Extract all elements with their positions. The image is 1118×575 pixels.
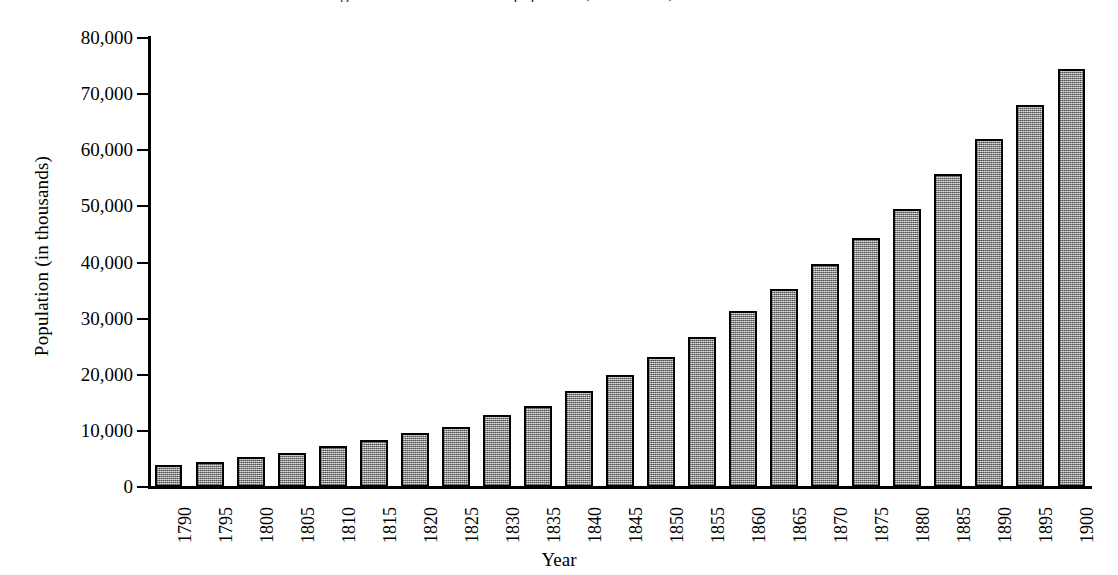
bar (811, 264, 839, 487)
bar (401, 433, 429, 487)
x-axis-tick-label: 1800 (258, 507, 276, 543)
x-axis-tick-label: 1840 (586, 507, 604, 543)
bar (155, 465, 183, 487)
y-axis-tick-label: 30,000 (7, 309, 133, 328)
bar (852, 238, 880, 487)
y-axis-tick-label: 50,000 (7, 196, 133, 215)
bar (278, 453, 306, 487)
bar (893, 209, 921, 487)
bar (975, 139, 1003, 487)
bar (196, 462, 224, 487)
x-axis-tick-label: 1820 (422, 507, 440, 543)
bar (688, 337, 716, 487)
x-axis-tick-label: 1900 (1078, 507, 1096, 543)
y-axis-tick-labels: 010,00020,00030,00040,00050,00060,00070,… (0, 0, 133, 575)
population-bar-chart: Figure: Growth of the U.S. population, 1… (0, 0, 1118, 575)
x-axis-tick-label: 1825 (463, 507, 481, 543)
x-axis-tick-label: 1845 (627, 507, 645, 543)
x-axis-tick-label: 1830 (504, 507, 522, 543)
y-axis-tick (137, 262, 149, 264)
bar (606, 375, 634, 487)
x-axis-tick-labels: 1790179518001805181018151820182518301835… (148, 489, 1092, 549)
x-axis-tick-label: 1875 (873, 507, 891, 543)
bar (934, 174, 962, 487)
x-axis-tick-label: 1890 (996, 507, 1014, 543)
y-axis-tick (137, 205, 149, 207)
x-axis-tick-label: 1885 (955, 507, 973, 543)
y-axis-tick-label: 10,000 (7, 421, 133, 440)
bar (1016, 105, 1044, 487)
bar (647, 357, 675, 487)
x-axis-tick-label: 1835 (545, 507, 563, 543)
x-axis-tick-label: 1795 (217, 507, 235, 543)
y-axis-tick (137, 374, 149, 376)
y-axis-tick-label: 40,000 (7, 253, 133, 272)
x-axis-tick-label: 1870 (832, 507, 850, 543)
x-axis-tick-label: 1860 (750, 507, 768, 543)
x-axis-tick-label: 1880 (914, 507, 932, 543)
bar (483, 415, 511, 487)
x-axis-tick-label: 1810 (340, 507, 358, 543)
bar (770, 289, 798, 487)
bar (319, 446, 347, 487)
x-axis-tick-label: 1865 (791, 507, 809, 543)
y-axis-tick (137, 93, 149, 95)
y-axis-tick-label: 60,000 (7, 140, 133, 159)
y-axis-tick-label: 70,000 (7, 84, 133, 103)
y-axis-tick-label: 20,000 (7, 365, 133, 384)
x-axis-tick-label: 1805 (299, 507, 317, 543)
x-axis-tick-label: 1850 (668, 507, 686, 543)
bar (524, 406, 552, 487)
y-axis-tick-label: 0 (7, 477, 133, 496)
y-axis-tick-label: 80,000 (7, 28, 133, 47)
y-axis-tick (137, 149, 149, 151)
x-axis-tick-label: 1895 (1037, 507, 1055, 543)
x-axis-title: Year (0, 549, 1118, 571)
y-axis-tick (137, 430, 149, 432)
bars-container (148, 38, 1092, 487)
bar (237, 457, 265, 487)
bar (1058, 69, 1086, 487)
y-axis-tick (137, 37, 149, 39)
x-axis-tick-label: 1790 (176, 507, 194, 543)
x-axis-tick-label: 1815 (381, 507, 399, 543)
bar (729, 311, 757, 487)
bar (442, 427, 470, 487)
chart-title-cropped: Figure: Growth of the U.S. population, 1… (0, 0, 1118, 2)
bar (360, 440, 388, 487)
bar (565, 391, 593, 487)
y-axis-tick (137, 318, 149, 320)
y-axis-tick (137, 486, 149, 488)
x-axis-tick-label: 1855 (709, 507, 727, 543)
